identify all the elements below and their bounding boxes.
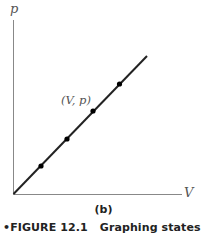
x-axis-label: V [184, 185, 193, 200]
caption-number: FIGURE 12.1 [10, 221, 88, 234]
point-label: (V, p) [61, 93, 91, 107]
data-point [64, 136, 69, 141]
data-point [117, 81, 122, 86]
data-point [90, 108, 95, 113]
data-line [14, 56, 148, 194]
figure-caption: •FIGURE 12.1Graphing states [3, 221, 201, 234]
panel-label: (b) [0, 203, 207, 216]
y-axis-label: p [10, 1, 18, 16]
data-point [38, 163, 43, 168]
caption-title: Graphing states [100, 221, 201, 234]
figure: p V (V, p) (b) •FIGURE 12.1Graphing stat… [0, 0, 207, 240]
